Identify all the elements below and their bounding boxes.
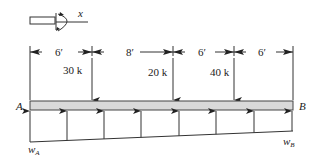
beam-end-b-label: B [299, 100, 306, 112]
dimension-label-4: 6′ [258, 46, 266, 58]
wb-label: wB [283, 135, 295, 149]
beam-diagram: x 6′ 8′ 6′ 6′ 30 k 20 k 40 k A B [0, 0, 317, 162]
beam: A B [15, 100, 306, 112]
load-label-20k: 20 k [148, 66, 168, 78]
load-label-30k: 30 k [63, 64, 83, 76]
point-loads: 30 k 20 k 40 k [63, 58, 234, 100]
distributed-load: wA wB [28, 111, 295, 157]
beam-end-a-label: A [15, 100, 23, 112]
x-axis-label: x [77, 7, 83, 19]
sign-convention-icon: x [30, 7, 88, 31]
dimension-label-3: 6′ [198, 46, 206, 58]
dimension-label-2: 8′ [126, 46, 134, 58]
dimension-label-1: 6′ [55, 46, 63, 58]
load-label-40k: 40 k [210, 66, 230, 78]
wa-label: wA [28, 143, 40, 157]
